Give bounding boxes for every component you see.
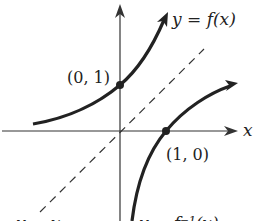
point-1-0-label: (1, 0) xyxy=(166,145,209,164)
graph-canvas: y = f(x) (0, 1) (1, 0) x y = x y = f⁻¹(x… xyxy=(0,0,258,221)
x-axis-label: x xyxy=(243,120,253,140)
point-1-0 xyxy=(162,127,170,135)
axes xyxy=(2,10,232,221)
point-0-1-label: (0, 1) xyxy=(67,68,110,87)
curve-finv-label: y = f⁻¹(x) xyxy=(138,213,219,221)
identity-label: y = x xyxy=(15,213,61,221)
point-0-1 xyxy=(116,81,124,89)
curve-f-label: y = f(x) xyxy=(171,9,236,29)
